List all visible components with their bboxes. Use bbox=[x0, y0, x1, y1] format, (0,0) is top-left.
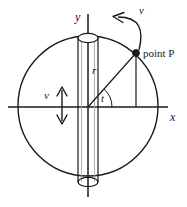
point-p-label: point P bbox=[143, 48, 174, 59]
vertical-velocity-label: v bbox=[44, 90, 49, 101]
x-axis-label: x bbox=[170, 111, 175, 123]
y-axis-label: y bbox=[75, 11, 80, 23]
tangential-velocity-label: v bbox=[139, 5, 144, 16]
cylinder-top-ellipse bbox=[78, 33, 98, 42]
radius-label: r bbox=[92, 65, 96, 76]
diagram-canvas bbox=[0, 0, 187, 207]
radius-line bbox=[88, 53, 136, 107]
angle-arc bbox=[104, 89, 112, 107]
physics-diagram-figure: y x v v r t point P bbox=[0, 0, 187, 207]
angle-label: t bbox=[101, 93, 104, 104]
point-p-dot bbox=[133, 50, 140, 57]
